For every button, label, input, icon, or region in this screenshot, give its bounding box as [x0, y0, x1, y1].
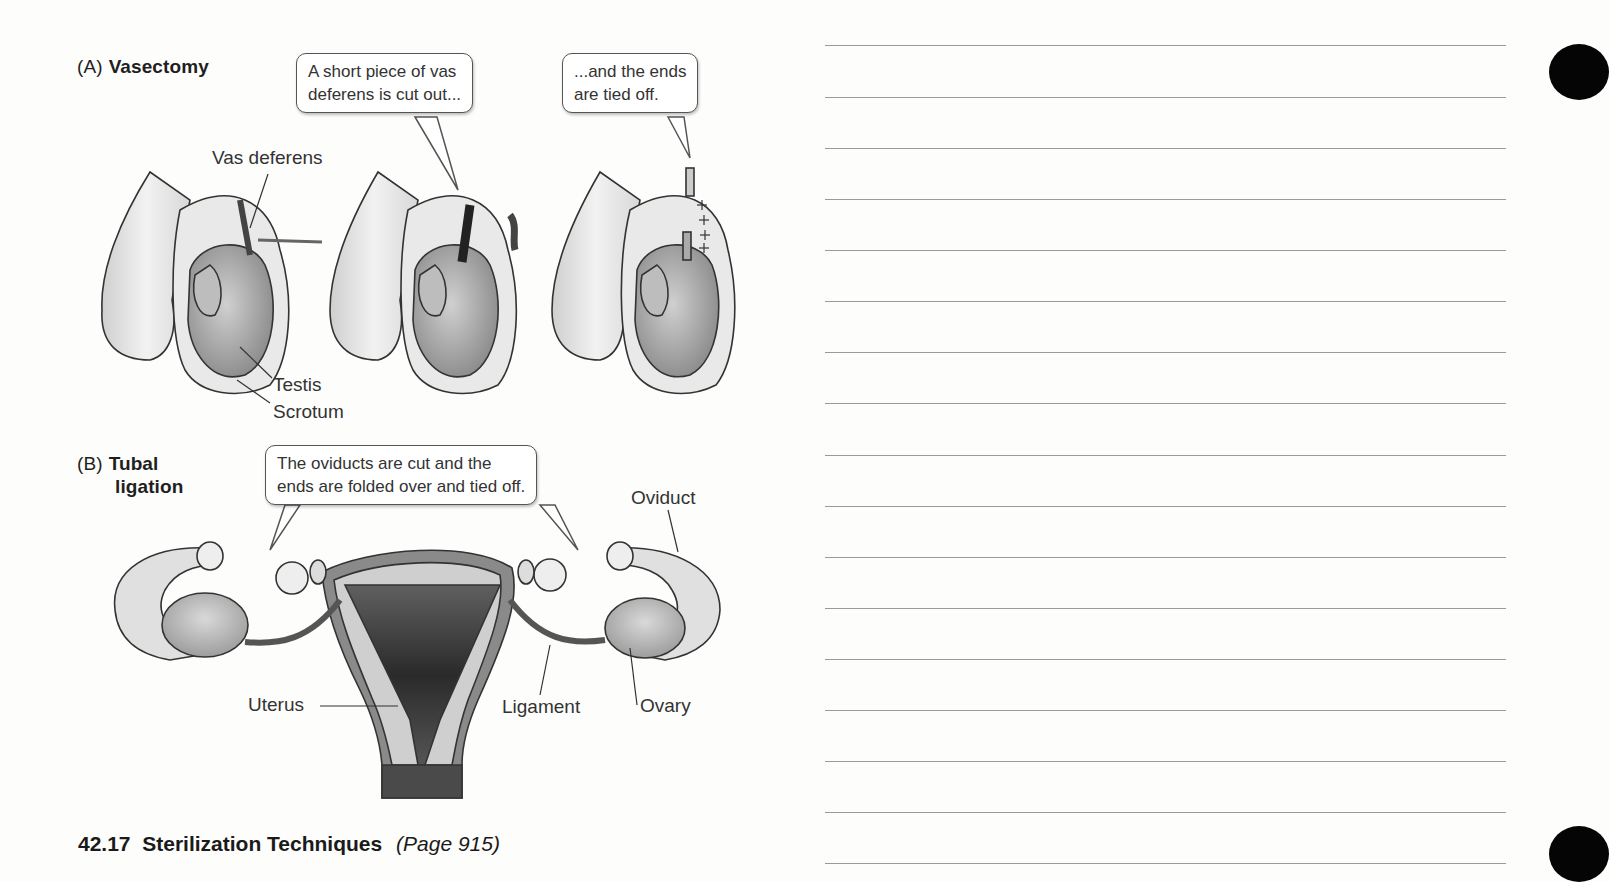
vasectomy-figure-3 [552, 168, 735, 393]
speech-bubble-cut-out: A short piece of vas deferens is cut out… [296, 53, 473, 113]
note-line [825, 506, 1506, 507]
note-line [825, 812, 1506, 813]
note-line [825, 250, 1506, 251]
note-line [825, 199, 1506, 200]
label-ovary: Ovary [640, 695, 691, 717]
label-oviduct: Oviduct [631, 487, 695, 509]
panel-b-title: (B)Tubal ligation [77, 452, 183, 498]
note-line [825, 403, 1506, 404]
bubble-pointer [270, 505, 578, 550]
punch-hole-top [1549, 44, 1609, 100]
bubble-line: A short piece of vas [308, 60, 461, 83]
panel-b-letter: (B) [77, 453, 103, 474]
speech-bubble-tied-off: ...and the ends are tied off. [562, 53, 698, 113]
vasectomy-figure-1 [102, 172, 322, 403]
panel-b-title-line2: ligation [77, 475, 183, 498]
note-line [825, 148, 1506, 149]
note-line [825, 455, 1506, 456]
bubble-line: deferens is cut out... [308, 83, 461, 106]
bubble-line: The oviducts are cut and the [277, 452, 525, 475]
note-line [825, 608, 1506, 609]
uterus-figure [322, 550, 514, 798]
note-line [825, 863, 1506, 864]
speech-bubble-oviducts: The oviducts are cut and the ends are fo… [265, 445, 537, 505]
note-line [825, 761, 1506, 762]
note-line [825, 97, 1506, 98]
page-reference: (Page 915) [396, 832, 500, 855]
bubble-pointer [415, 117, 690, 190]
note-line [825, 45, 1506, 46]
bubble-line: are tied off. [574, 83, 686, 106]
figure-number: 42.17 [78, 832, 131, 855]
bubble-line: ends are folded over and tied off. [277, 475, 525, 498]
note-line [825, 710, 1506, 711]
right-oviduct-figure [510, 542, 720, 660]
punch-hole-bottom [1549, 826, 1609, 882]
vasectomy-figure-2 [330, 172, 516, 393]
note-line [825, 659, 1506, 660]
label-ligament: Ligament [502, 696, 580, 718]
panel-b-title-line1: Tubal [109, 453, 159, 474]
figure-caption: 42.17 Sterilization Techniques (Page 915… [78, 832, 500, 856]
note-line [825, 557, 1506, 558]
anatomy-illustration [0, 0, 800, 882]
bubble-line: ...and the ends [574, 60, 686, 83]
note-line [825, 301, 1506, 302]
label-uterus: Uterus [248, 694, 304, 716]
note-line [825, 352, 1506, 353]
left-oviduct-figure [115, 542, 340, 660]
figure-title: Sterilization Techniques [142, 832, 382, 855]
